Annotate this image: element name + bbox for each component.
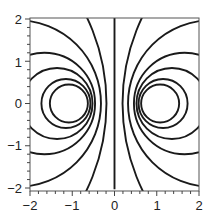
x-axis-labels: −2 −1 0 1 2 [23, 198, 203, 213]
y-axis-labels: 2 1 0 −1 −2 [7, 12, 22, 196]
x-tick-label: 0 [111, 198, 118, 213]
x-tick-label: −1 [65, 198, 80, 213]
y-tick-label: 0 [15, 96, 22, 111]
y-tick-label: 2 [15, 12, 22, 27]
x-tick-label: 2 [195, 198, 202, 213]
y-tick-label: −2 [7, 181, 22, 196]
x-tick-label: −2 [23, 198, 38, 213]
y-tick-label: 1 [15, 55, 22, 70]
y-tick-label: −1 [7, 138, 22, 153]
x-tick-label: 1 [153, 198, 160, 213]
contour-plot: −2 −1 0 1 2 2 1 0 −1 −2 [0, 0, 210, 219]
